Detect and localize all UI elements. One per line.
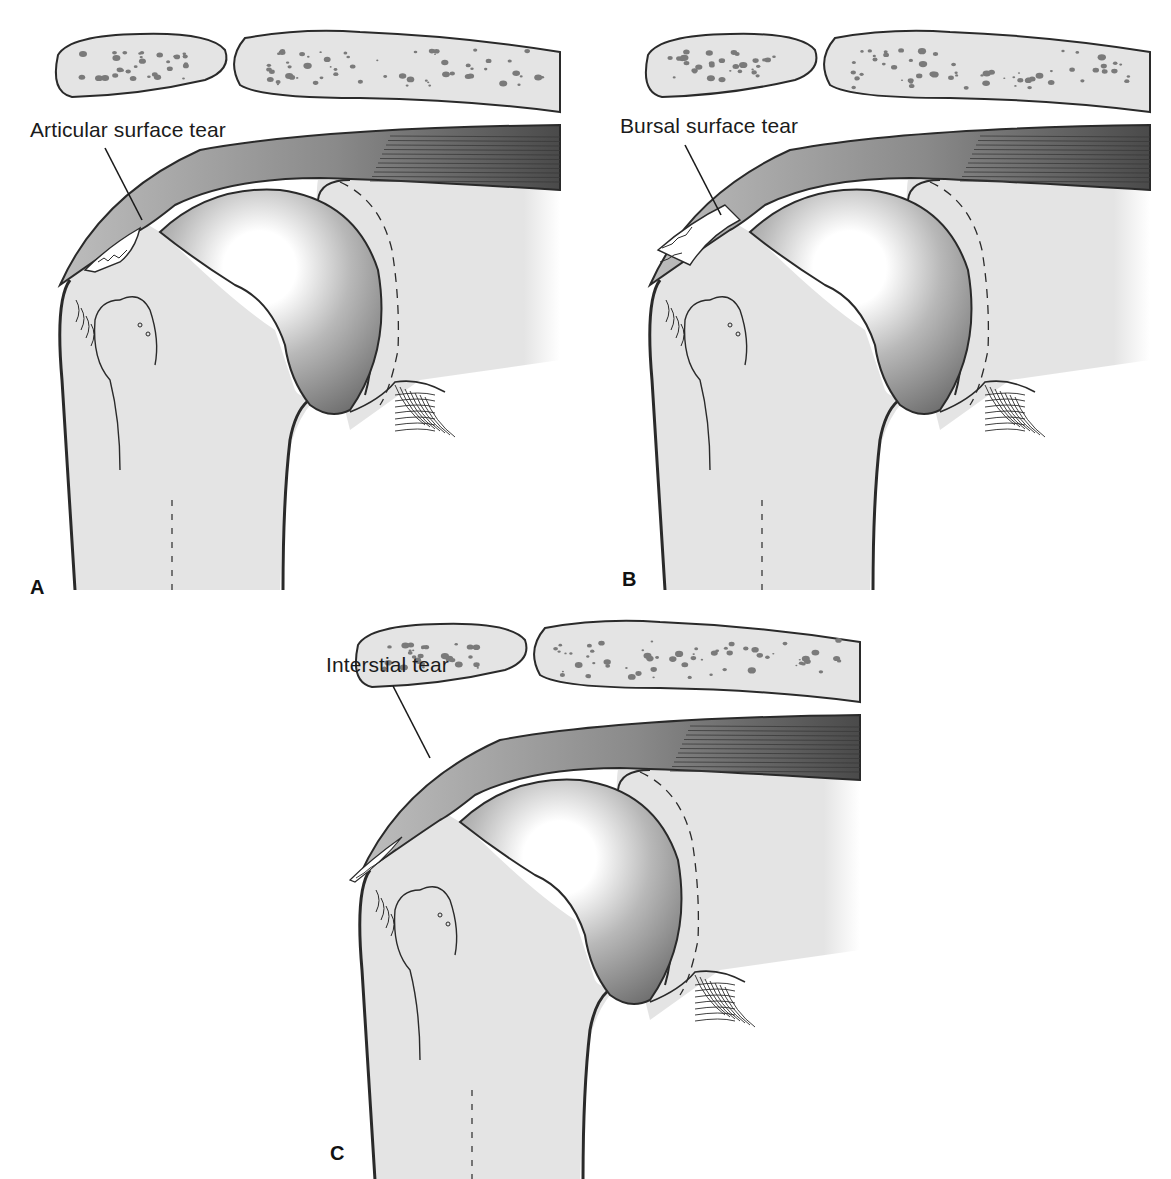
- trabecular-spot: [112, 51, 117, 55]
- trabecular-spot: [799, 659, 801, 661]
- capsule-crosshatch: [985, 385, 1045, 437]
- trabecular-spot: [765, 656, 770, 659]
- trabecular-spot: [346, 56, 350, 59]
- trabecular-spot: [473, 662, 479, 667]
- trabecular-spot: [916, 74, 922, 79]
- trabecular-spot: [512, 70, 520, 76]
- trabecular-spot: [835, 638, 841, 643]
- trabecular-spot: [873, 55, 876, 57]
- trabecular-spot: [134, 65, 138, 68]
- trabecular-spot: [450, 72, 455, 76]
- trabecular-spot: [296, 77, 298, 79]
- trabecular-spot: [883, 53, 889, 57]
- trabecular-spot: [931, 71, 939, 77]
- trabecular-spot: [425, 80, 428, 82]
- trabecular-spot: [772, 56, 776, 59]
- trabecular-spot: [359, 82, 362, 84]
- trabecular-spot: [1027, 86, 1032, 89]
- trabecular-spot: [1048, 80, 1055, 85]
- callout-label-a: Articular surface tear: [30, 118, 226, 142]
- trabecular-spot: [387, 645, 392, 648]
- trabecular-spot: [706, 50, 713, 55]
- trabecular-spot: [852, 61, 856, 64]
- trabecular-spot: [427, 82, 429, 84]
- trabecular-spot: [729, 642, 735, 647]
- trabecular-spot: [112, 73, 118, 77]
- trabecular-spot: [1050, 70, 1053, 72]
- trabecular-spot: [166, 60, 170, 63]
- trabecular-spot: [455, 662, 463, 668]
- trabecular-spot: [1093, 68, 1099, 73]
- trabecular-spot: [948, 76, 954, 80]
- trabecular-spot: [183, 64, 189, 69]
- trabecular-spot: [122, 51, 127, 55]
- clavicle-bone: [534, 621, 860, 702]
- panel-b-bursal-surface-tear: Bursal surface tear B: [590, 0, 1150, 560]
- trabecular-spot: [651, 640, 654, 642]
- trabecular-spot: [524, 49, 530, 53]
- trabecular-spot: [1018, 72, 1020, 74]
- trabecular-spot: [739, 62, 747, 68]
- trabecular-spot: [320, 76, 324, 79]
- trabecular-spot: [560, 673, 565, 677]
- trabecular-spot: [433, 49, 439, 54]
- trabecular-spot: [1012, 76, 1015, 78]
- trabecular-spot: [562, 671, 564, 673]
- trabecular-spot: [559, 644, 563, 647]
- trabecular-spot: [729, 70, 731, 72]
- trabecular-spot: [126, 69, 131, 73]
- trabecular-spot: [628, 674, 636, 680]
- panel-letter-a: A: [30, 576, 44, 599]
- trabecular-spot: [715, 649, 719, 652]
- trabecular-spot: [564, 653, 566, 655]
- trabecular-spot: [1119, 64, 1122, 66]
- trabecular-spot: [174, 55, 180, 60]
- panel-a-articular-surface-tear: Articular surface tear A: [0, 0, 560, 560]
- trabecular-spot: [688, 676, 692, 679]
- trabecular-spot: [592, 662, 595, 664]
- trabecular-spot: [1113, 62, 1118, 66]
- trabecular-spot: [344, 52, 348, 55]
- trabecular-spot: [819, 670, 823, 673]
- trabecular-spot: [541, 76, 544, 79]
- trabecular-spot: [508, 59, 512, 62]
- trabecular-spot: [277, 84, 279, 86]
- trabecular-spot: [130, 76, 137, 81]
- trabecular-spot: [604, 659, 611, 665]
- trabecular-spot: [1061, 50, 1064, 53]
- trabecular-spot: [851, 70, 856, 74]
- trabecular-spot: [873, 58, 878, 62]
- trabecular-spot: [783, 642, 788, 646]
- trabecular-spot: [499, 81, 507, 87]
- trabecular-spot: [669, 656, 676, 662]
- trabecular-spot: [860, 73, 864, 76]
- trabecular-spot: [901, 79, 903, 81]
- trabecular-spot: [1036, 73, 1044, 79]
- trabecular-spot: [319, 51, 321, 53]
- trabecular-spot: [156, 52, 163, 57]
- trabecular-spot: [852, 86, 856, 89]
- trabecular-spot: [695, 64, 702, 69]
- trabecular-spot: [751, 69, 753, 71]
- trabecular-spot: [470, 68, 473, 71]
- clavicle-bone: [234, 31, 560, 112]
- trabecular-spot: [919, 61, 927, 67]
- trabecular-spot: [266, 67, 272, 71]
- trabecular-spot: [585, 674, 591, 678]
- trabecular-spot: [751, 647, 758, 653]
- trabecular-spot: [406, 85, 409, 87]
- trabecular-spot: [1017, 78, 1023, 82]
- trabecular-spot: [558, 650, 561, 652]
- trabecular-spot: [1080, 79, 1084, 82]
- trabecular-spot: [795, 665, 797, 667]
- trabecular-spot: [285, 73, 293, 79]
- trabecular-spot: [964, 86, 969, 90]
- trabecular-spot: [1098, 54, 1106, 60]
- panel-c-interstitial-tear: Interstial tear C: [300, 590, 860, 1150]
- trabecular-spot: [918, 48, 926, 54]
- callout-leader-line: [393, 686, 430, 758]
- trabecular-spot: [465, 74, 472, 79]
- trabecular-spot: [719, 58, 725, 63]
- trabecular-spot: [757, 653, 763, 658]
- trabecular-spot: [412, 650, 414, 652]
